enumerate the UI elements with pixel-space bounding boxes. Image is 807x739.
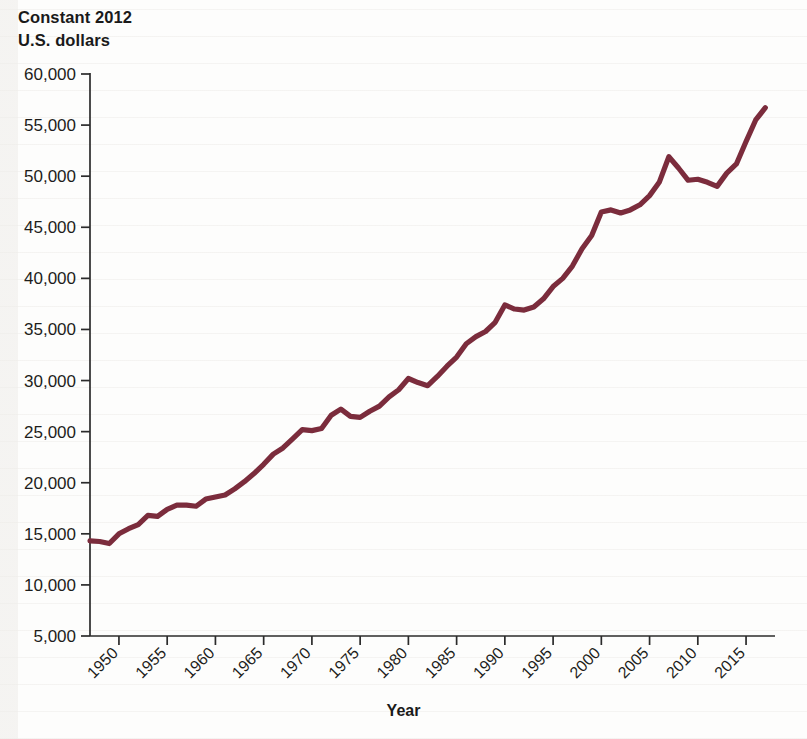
x-tick-label: 1990	[470, 644, 507, 681]
y-tick-label: 15,000	[24, 525, 76, 544]
x-tick-label: 2005	[615, 644, 652, 681]
x-tick-label: 2015	[711, 644, 748, 681]
x-tick-label: 2010	[663, 644, 700, 681]
x-tick-label: 1985	[422, 644, 459, 681]
y-tick-label: 35,000	[24, 320, 76, 339]
x-tick-label: 1965	[229, 644, 266, 681]
x-tick-label: 1960	[180, 644, 217, 681]
y-tick-label: 60,000	[24, 65, 76, 84]
y-tick-label: 25,000	[24, 423, 76, 442]
y-tick-label: 45,000	[24, 218, 76, 237]
y-tick-label: 40,000	[24, 269, 76, 288]
y-tick-label: 55,000	[24, 116, 76, 135]
x-tick-label: 1950	[84, 644, 121, 681]
chart-svg: 5,00010,00015,00020,00025,00030,00035,00…	[0, 0, 807, 739]
income-line-chart-figure: Constant 2012 U.S. dollars 5,00010,00015…	[0, 0, 807, 739]
data-series-line	[90, 108, 765, 544]
x-axis-title: Year	[0, 702, 807, 720]
y-tick-label: 10,000	[24, 576, 76, 595]
x-tick-label: 1970	[277, 644, 314, 681]
x-tick-label: 1980	[373, 644, 410, 681]
x-tick-label: 1955	[132, 644, 169, 681]
y-tick-label: 5,000	[33, 627, 76, 646]
x-tick-label: 1995	[518, 644, 555, 681]
y-tick-label: 20,000	[24, 474, 76, 493]
x-tick-label: 1975	[325, 644, 362, 681]
x-tick-label: 2000	[566, 644, 603, 681]
y-tick-label: 50,000	[24, 167, 76, 186]
y-tick-label: 30,000	[24, 372, 76, 391]
